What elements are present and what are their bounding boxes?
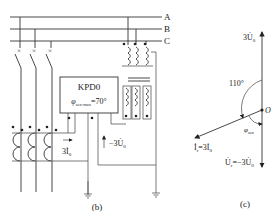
phasor-diagram: O 3U̇0 110° φsen İr=3İ0 U̇r=−3U̇0 (c) — [194, 32, 271, 209]
vt-primary-coil-icon — [146, 47, 148, 65]
phi-label: φsen — [244, 126, 255, 135]
diagram-canvas: A B C × × × — [0, 0, 280, 221]
vt-primary-coil-icon — [128, 47, 130, 65]
bus-label-c: C — [164, 36, 170, 46]
vt-secondary-coil-icon — [146, 88, 148, 106]
vt-secondary-coil-icon — [126, 88, 128, 106]
bus-lines — [10, 17, 162, 41]
current-transformers — [12, 126, 88, 161]
angle-arc-110 — [241, 80, 262, 118]
feeder-breakers: × × × — [15, 17, 52, 192]
relay-setting: φsen·max=70° — [71, 97, 106, 107]
phasor-ur-label: U̇r=−3U̇0 — [225, 157, 254, 168]
current-label: 3İ0 — [62, 147, 72, 157]
bus-label-b: B — [164, 24, 170, 34]
relay-name: KPD0 — [78, 82, 101, 92]
phasor-ir-label: İr=3İ0 — [194, 143, 213, 153]
phasor-3u0-label: 3U̇0 — [243, 32, 256, 43]
voltage-label: −3U̇0 — [109, 138, 126, 149]
ground-icon — [84, 181, 92, 198]
ct-coil-icon — [13, 133, 20, 161]
breaker-x-icon: × — [32, 47, 36, 55]
caption-b: (b) — [92, 202, 103, 212]
circuit-diagram: A B C × × × — [10, 12, 171, 212]
bus-label-a: A — [164, 12, 171, 22]
caption-c: (c) — [240, 199, 250, 209]
origin-point — [260, 108, 263, 111]
ground-icon — [152, 193, 160, 197]
vt-secondary-coil-icon — [135, 88, 137, 106]
angle-label: 110° — [229, 79, 244, 88]
breaker-x-icon: × — [17, 47, 21, 55]
origin-label: O — [265, 106, 271, 115]
angle-arc-phi — [249, 116, 262, 124]
ct-coil-icon — [44, 133, 51, 161]
vt-primary-coil-icon — [136, 47, 138, 65]
ct-coil-icon — [28, 133, 35, 161]
breaker-x-icon: × — [48, 47, 52, 55]
